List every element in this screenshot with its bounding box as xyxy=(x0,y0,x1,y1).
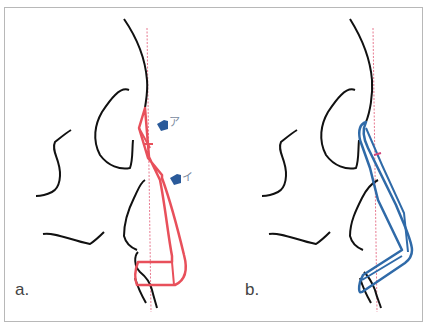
panel-a-label: a. xyxy=(15,280,29,300)
mouth-line-a xyxy=(43,232,104,244)
panel-b-label: b. xyxy=(245,280,259,300)
reference-line-a xyxy=(147,28,151,312)
panel-a xyxy=(36,19,186,312)
marker-a-icon xyxy=(157,120,168,131)
marker-a-label: ア xyxy=(169,113,180,129)
eye-contour-a xyxy=(95,89,133,168)
nose-lip-profile-b xyxy=(350,180,378,250)
cheek-contour-a xyxy=(36,130,71,196)
inner-mark-b xyxy=(374,153,381,155)
panel-b xyxy=(262,19,412,312)
nose-lip-profile-a xyxy=(124,180,145,250)
face-profile-upper-a xyxy=(124,19,147,108)
mouth-line-b xyxy=(269,232,330,244)
cheek-contour-b xyxy=(262,130,297,196)
figure-drawing xyxy=(0,0,429,330)
marker-i-label: イ xyxy=(182,168,193,184)
marker-i-icon xyxy=(170,174,181,185)
eye-contour-b xyxy=(321,89,359,168)
face-profile-upper-b xyxy=(350,19,372,122)
lip-a xyxy=(135,252,157,308)
